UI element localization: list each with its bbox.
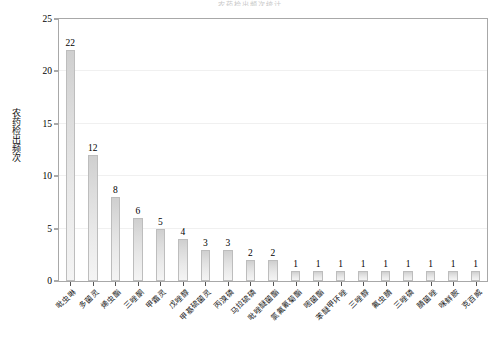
bar-slot: 1 bbox=[352, 19, 375, 281]
bar[interactable] bbox=[471, 271, 480, 281]
bar[interactable] bbox=[66, 50, 75, 281]
x-tick-mark bbox=[205, 282, 206, 286]
bar[interactable] bbox=[88, 155, 97, 281]
bar[interactable] bbox=[426, 271, 435, 281]
y-tick-mark bbox=[54, 176, 58, 177]
y-axis-title: 农药检出频次 bbox=[8, 108, 22, 162]
bar-slot: 1 bbox=[329, 19, 352, 281]
bar[interactable] bbox=[358, 271, 367, 281]
bar-series: 221286543322111111111 bbox=[59, 19, 487, 281]
x-tick-mark bbox=[160, 282, 161, 286]
bar[interactable] bbox=[133, 218, 142, 281]
bar-slot: 1 bbox=[442, 19, 465, 281]
y-tick-mark bbox=[54, 281, 58, 282]
bar[interactable] bbox=[336, 271, 345, 281]
y-tick-mark bbox=[54, 123, 58, 124]
bar-slot: 1 bbox=[374, 19, 397, 281]
y-tick-label: 25 bbox=[18, 14, 52, 24]
x-tick-label-text: 克百威 bbox=[459, 286, 484, 311]
bar[interactable] bbox=[291, 271, 300, 281]
y-tick-label: 15 bbox=[18, 119, 52, 129]
chart-title: 农药检出频次统计 bbox=[0, 0, 499, 6]
x-tick-mark bbox=[250, 282, 251, 286]
bar-slot: 2 bbox=[262, 19, 285, 281]
bar-slot: 1 bbox=[284, 19, 307, 281]
bar-slot: 1 bbox=[307, 19, 330, 281]
y-tick-label: 5 bbox=[18, 224, 52, 234]
bar-slot: 1 bbox=[397, 19, 420, 281]
bar[interactable] bbox=[201, 250, 210, 281]
y-tick-label: 0 bbox=[18, 276, 52, 286]
y-tick-mark bbox=[54, 19, 58, 20]
bar-slot: 1 bbox=[464, 19, 487, 281]
bar[interactable] bbox=[246, 260, 255, 281]
chart-figure: 农药检出频次统计 农药检出频次 0510152025 2212865433221… bbox=[0, 0, 499, 356]
bar-slot: 5 bbox=[149, 19, 172, 281]
bar[interactable] bbox=[381, 271, 390, 281]
bar-slot: 1 bbox=[419, 19, 442, 281]
bar-value-label: 1 bbox=[454, 259, 497, 269]
y-tick-mark bbox=[54, 71, 58, 72]
bar[interactable] bbox=[313, 271, 322, 281]
y-tick-label: 10 bbox=[18, 171, 52, 181]
bar[interactable] bbox=[403, 271, 412, 281]
y-tick-label: 20 bbox=[18, 66, 52, 76]
bar-slot: 12 bbox=[82, 19, 105, 281]
bar-slot: 6 bbox=[127, 19, 150, 281]
bar[interactable] bbox=[448, 271, 457, 281]
bar-slot: 2 bbox=[239, 19, 262, 281]
bar-slot: 3 bbox=[217, 19, 240, 281]
x-tick-mark bbox=[70, 282, 71, 286]
bar-slot: 8 bbox=[104, 19, 127, 281]
y-tick-mark bbox=[54, 228, 58, 229]
x-tick-mark bbox=[115, 282, 116, 286]
